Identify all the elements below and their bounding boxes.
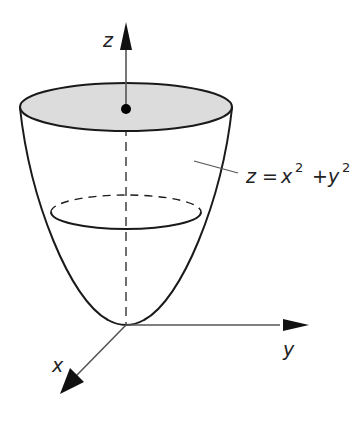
y-axis-arrowhead xyxy=(283,319,309,331)
equation-plus: + xyxy=(312,165,328,187)
equation-leader-line xyxy=(194,161,238,173)
z-axis-arrowhead xyxy=(120,22,132,50)
equation-label: z = x 2 + y 2 xyxy=(245,160,350,187)
x-axis-label: x xyxy=(51,354,64,376)
z-axis-point xyxy=(121,104,131,114)
equation-y-exponent: 2 xyxy=(342,160,350,175)
equation-equals: = xyxy=(262,165,278,187)
z-axis-label: z xyxy=(102,29,114,51)
y-axis-label: y xyxy=(282,338,295,360)
equation-y: y xyxy=(327,165,340,187)
equation-x: x xyxy=(280,165,293,187)
x-axis-line xyxy=(76,325,126,376)
paraboloid-diagram: z y x z = x 2 + y 2 xyxy=(0,0,363,423)
equation-x-exponent: 2 xyxy=(295,160,303,175)
equation-lhs: z xyxy=(245,165,257,187)
